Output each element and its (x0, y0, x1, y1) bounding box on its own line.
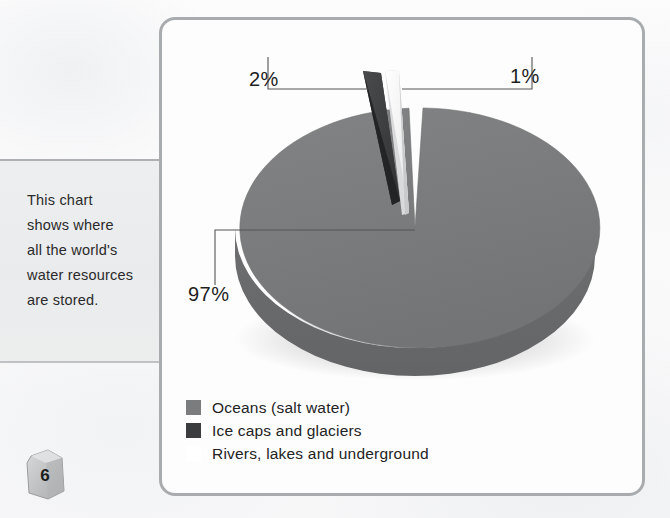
legend-swatch-icecaps (186, 423, 201, 438)
legend-swatch-oceans (186, 400, 201, 415)
legend-label-icecaps: Ice caps and glaciers (212, 422, 362, 440)
legend-item-oceans: Oceans (salt water) (186, 396, 486, 419)
legend-label-oceans: Oceans (salt water) (212, 399, 350, 417)
pie-label-1-percent: 1% (510, 65, 540, 88)
legend-swatch-rivers (186, 446, 201, 461)
legend-item-icecaps: Ice caps and glaciers (186, 419, 486, 442)
caption-panel: This chart shows where all the world's w… (0, 159, 159, 363)
pie-label-2-percent: 2% (249, 68, 279, 91)
legend-item-rivers: Rivers, lakes and underground (186, 442, 486, 465)
caption-text: This chart shows where all the world's w… (27, 188, 152, 313)
page-number: 6 (22, 447, 68, 501)
page-number-stone: 6 (22, 447, 68, 501)
chart-legend: Oceans (salt water) Ice caps and glacier… (186, 396, 486, 465)
legend-label-rivers: Rivers, lakes and underground (212, 445, 429, 463)
pie-label-97-percent: 97% (188, 283, 230, 306)
pie-slice-oceans-top (240, 108, 600, 348)
